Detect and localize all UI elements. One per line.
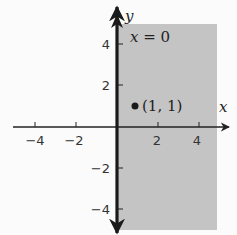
x-tick-label: −2 [64,133,83,148]
inequality-graph: −4 −2 2 4 4 2 −2 −4 y x x = 0 (1, 1) [0,0,237,235]
boundary-equation-label: x = 0 [130,28,170,46]
test-point [132,103,139,110]
x-tick-label: 2 [153,133,161,148]
x-tick-label: 4 [193,133,201,148]
y-tick-label: 4 [102,37,110,52]
y-tick-label: 2 [102,78,110,93]
test-point-label: (1, 1) [142,97,182,115]
y-tick-label: −4 [91,202,110,217]
x-axis-label: x [219,98,228,116]
x-tick-label: −4 [25,133,44,148]
y-axis-label: y [124,7,134,25]
y-tick-label: −2 [91,161,110,176]
